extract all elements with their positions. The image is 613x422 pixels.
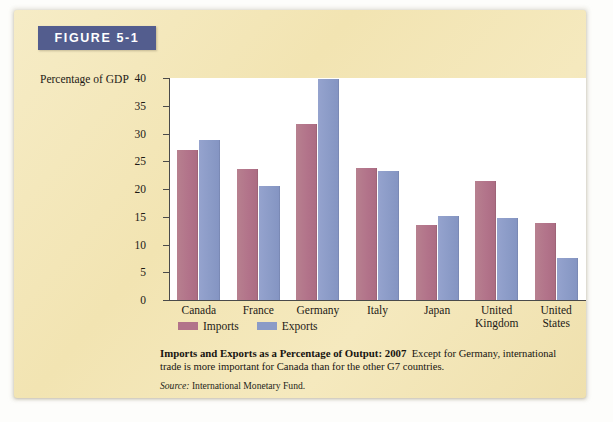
bar-imports-united-kingdom xyxy=(475,181,496,300)
source-note: Source: International Monetary Fund. xyxy=(160,380,305,391)
legend-label: Exports xyxy=(282,320,318,332)
y-axis-tick-label: 0 xyxy=(106,294,152,306)
y-axis-tick xyxy=(163,217,170,218)
legend-label: Imports xyxy=(203,320,239,332)
figure-card: FIGURE 5-1 Percentage of GDP 05101520253… xyxy=(14,10,586,398)
chart-legend: ImportsExports xyxy=(178,320,318,332)
bar-exports-japan xyxy=(438,216,459,300)
y-axis-tick-label: 35 xyxy=(106,100,152,112)
figure-number-banner: FIGURE 5-1 xyxy=(38,26,156,50)
source-label: Source: xyxy=(160,380,189,391)
legend-item: Imports xyxy=(178,320,239,332)
y-axis-tick-label: 15 xyxy=(106,211,152,223)
figure-caption: Imports and Exports as a Percentage of O… xyxy=(160,347,560,374)
bar-group xyxy=(237,78,280,300)
x-axis-label-line: States xyxy=(519,317,593,330)
bar-exports-united-kingdom xyxy=(497,218,518,300)
legend-swatch-imports xyxy=(178,322,198,330)
y-axis-tick-label: 30 xyxy=(106,128,152,140)
bar-imports-germany xyxy=(296,124,317,300)
y-axis-tick-label: 20 xyxy=(106,183,152,195)
y-axis-tick xyxy=(163,272,170,273)
x-axis-label-line: United xyxy=(519,304,593,317)
caption-title: Imports and Exports as a Percentage of O… xyxy=(160,347,406,359)
figure-number-label: FIGURE 5-1 xyxy=(55,31,140,45)
y-axis-tick xyxy=(163,78,170,79)
bar-exports-france xyxy=(259,186,280,300)
y-axis-tick-label: 40 xyxy=(106,72,152,84)
page-background: FIGURE 5-1 Percentage of GDP 05101520253… xyxy=(0,0,613,422)
legend-swatch-exports xyxy=(257,322,277,330)
y-axis-tick xyxy=(163,134,170,135)
y-axis-tick xyxy=(163,189,170,190)
bar-exports-canada xyxy=(199,140,220,300)
y-axis-tick xyxy=(163,161,170,162)
bar-exports-germany xyxy=(318,79,339,300)
bar-group xyxy=(356,78,399,300)
y-axis-tick xyxy=(163,300,170,301)
bar-group xyxy=(535,78,578,300)
bar-group xyxy=(296,78,339,300)
bar-imports-italy xyxy=(356,168,377,300)
legend-item: Exports xyxy=(257,320,318,332)
x-axis-line xyxy=(169,300,586,301)
source-text: International Monetary Fund. xyxy=(192,380,305,391)
y-axis-tick xyxy=(163,245,170,246)
bar-imports-france xyxy=(237,169,258,300)
bar-exports-united-states xyxy=(557,258,578,300)
bar-group xyxy=(177,78,220,300)
y-axis-tick-label: 5 xyxy=(106,266,152,278)
y-axis-tick-label: 25 xyxy=(106,155,152,167)
bar-group xyxy=(416,78,459,300)
bar-exports-italy xyxy=(378,171,399,300)
bar-imports-canada xyxy=(177,150,198,300)
x-axis-label: UnitedStates xyxy=(519,304,593,330)
y-axis-tick xyxy=(163,106,170,107)
bar-group xyxy=(475,78,518,300)
plot-area-wrapper: 0510152025303540 xyxy=(152,78,586,301)
bar-imports-united-states xyxy=(535,223,556,300)
bar-imports-japan xyxy=(416,225,437,300)
y-axis-tick-label: 10 xyxy=(106,239,152,251)
